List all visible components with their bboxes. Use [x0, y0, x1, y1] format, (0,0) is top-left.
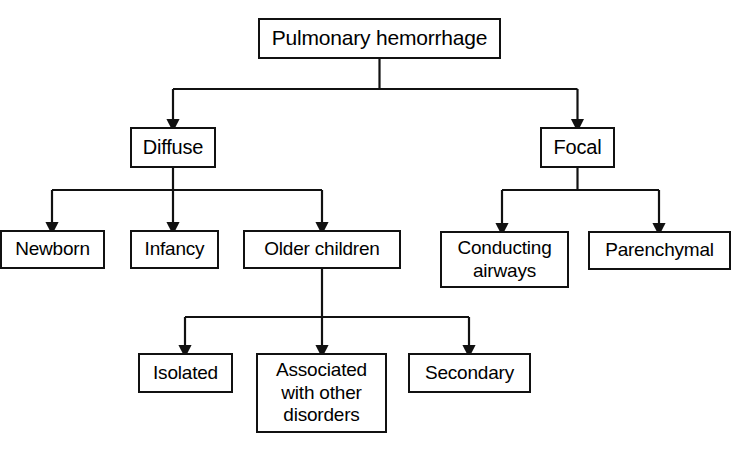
node-diffuse[interactable]: Diffuse — [130, 127, 216, 168]
node-label: Focal — [554, 136, 602, 160]
node-focal[interactable]: Focal — [540, 127, 615, 168]
node-isolated[interactable]: Isolated — [138, 353, 233, 393]
node-label: Secondary — [425, 362, 514, 384]
node-secondary[interactable]: Secondary — [408, 353, 531, 393]
node-label: Isolated — [153, 362, 218, 384]
node-parenchymal[interactable]: Parenchymal — [588, 231, 731, 270]
node-associated-with-other-disorders[interactable]: Associated with other disorders — [256, 353, 387, 433]
node-older-children[interactable]: Older children — [243, 230, 401, 269]
node-label: Newborn — [15, 238, 90, 260]
node-newborn[interactable]: Newborn — [0, 230, 105, 269]
flowchart-canvas: Pulmonary hemorrhage Diffuse Focal Newbo… — [0, 0, 740, 451]
node-conducting-airways[interactable]: Conducting airways — [440, 231, 569, 288]
node-pulmonary-hemorrhage[interactable]: Pulmonary hemorrhage — [258, 18, 501, 59]
node-label: Diffuse — [143, 136, 204, 160]
node-label: Pulmonary hemorrhage — [272, 26, 487, 51]
node-infancy[interactable]: Infancy — [130, 230, 219, 269]
node-label: Parenchymal — [605, 239, 714, 261]
node-label: Conducting airways — [457, 237, 551, 282]
node-label: Infancy — [145, 238, 205, 260]
node-label: Older children — [264, 238, 379, 260]
node-label: Associated with other disorders — [276, 359, 367, 426]
